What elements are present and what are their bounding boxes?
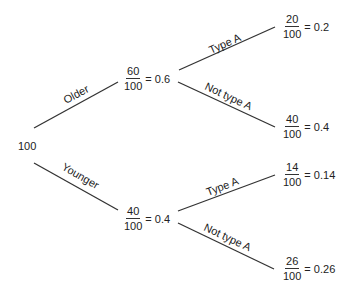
root-value: 100 xyxy=(18,140,36,152)
label-younger-not-type-a: Not type A xyxy=(202,221,254,254)
denominator: 100 xyxy=(283,269,301,282)
probability: = 0.26 xyxy=(304,263,335,275)
node-younger-not-type-a: 26 100 = 0.26 xyxy=(283,255,335,282)
probability: = 0.4 xyxy=(304,121,329,133)
root-node: 100 xyxy=(18,140,36,152)
node-older-not-type-a: 40 100 = 0.4 xyxy=(283,113,329,140)
denominator: 100 xyxy=(283,27,301,40)
label-older: Older xyxy=(61,82,91,105)
node-younger-type-a: 14 100 = 0.14 xyxy=(283,161,335,188)
numerator: 26 xyxy=(285,255,299,269)
label-younger: Younger xyxy=(60,160,101,191)
node-older-type-a: 20 100 = 0.2 xyxy=(283,13,329,40)
probability: = 0.14 xyxy=(304,169,335,181)
numerator: 20 xyxy=(285,13,299,27)
node-younger: 40 100 = 0.4 xyxy=(124,205,170,232)
label-older-type-a: Type A xyxy=(207,31,243,56)
denominator: 100 xyxy=(283,127,301,140)
denominator: 100 xyxy=(124,219,142,232)
node-older: 60 100 = 0.6 xyxy=(124,65,170,92)
probability: = 0.6 xyxy=(145,73,170,85)
numerator: 40 xyxy=(285,113,299,127)
probability: = 0.2 xyxy=(304,21,329,33)
tree-lines: Older Younger Type A Not type A Type A N… xyxy=(0,0,356,298)
numerator: 14 xyxy=(285,161,299,175)
denominator: 100 xyxy=(124,79,142,92)
label-older-not-type-a: Not type A xyxy=(203,80,255,113)
probability: = 0.4 xyxy=(145,213,170,225)
numerator: 60 xyxy=(126,65,140,79)
numerator: 40 xyxy=(126,205,140,219)
denominator: 100 xyxy=(283,175,301,188)
